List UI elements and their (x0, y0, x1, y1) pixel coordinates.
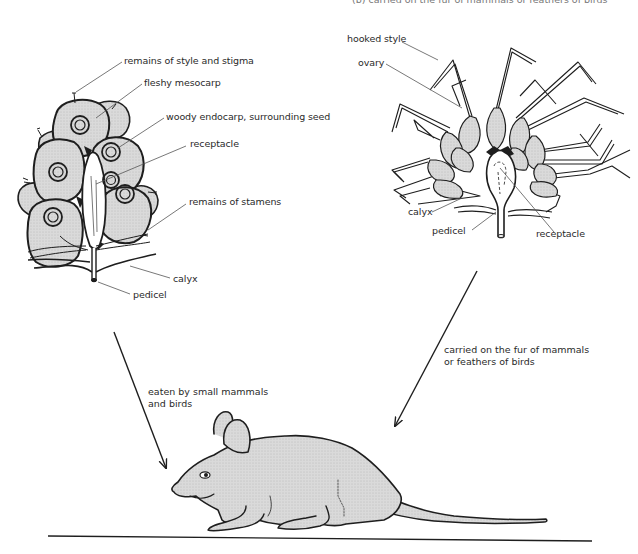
label-calyx-hooked: calyx (408, 206, 432, 218)
caption-carried: carried on the fur of mammals or feather… (444, 344, 589, 368)
label-woody-endocarp: woody endocarp, surrounding seed (166, 111, 330, 123)
label-remains-of-stamens: remains of stamens (189, 196, 281, 208)
label-receptacle-hooked: receptacle (536, 228, 585, 240)
label-hooked-style: hooked style (347, 33, 406, 45)
caption-carried-line1: carried on the fur of mammals (444, 344, 589, 356)
mouse-illustration (172, 412, 547, 531)
fleshy-aggregate-fruit (18, 93, 158, 282)
label-calyx-fleshy: calyx (173, 273, 197, 285)
label-remains-style-stigma: remains of style and stigma (124, 55, 254, 67)
label-pedicel-hooked: pedicel (432, 225, 466, 237)
dispersal-diagram: (b) carried on the fur of mammals or fea… (0, 0, 638, 554)
ground-line (48, 536, 592, 541)
caption-eaten-line2: and birds (148, 398, 268, 410)
label-fleshy-mesocarp: fleshy mesocarp (144, 77, 221, 89)
label-ovary: ovary (358, 57, 384, 69)
top-cut-caption: (b) carried on the fur of mammals or fea… (352, 0, 607, 5)
label-receptacle-fleshy: receptacle (190, 138, 239, 150)
caption-eaten-line1: eaten by small mammals (148, 386, 268, 398)
diagram-drawing (0, 0, 638, 554)
caption-eaten: eaten by small mammals and birds (148, 386, 268, 410)
label-pedicel-fleshy: pedicel (133, 289, 167, 301)
caption-carried-line2: or feathers of birds (444, 356, 589, 368)
